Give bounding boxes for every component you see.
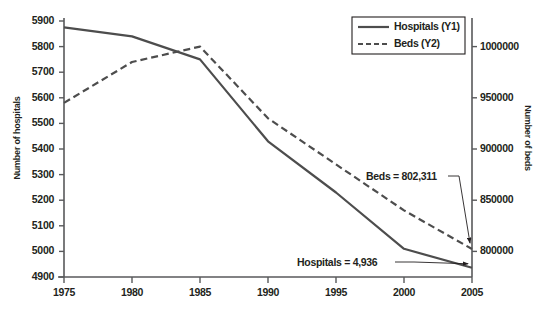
chart-container: Number of hospitals Number of beds 59005… <box>0 0 543 320</box>
y-axis-left-tick-label: 5900 <box>10 14 54 26</box>
x-axis-tick-label: 1985 <box>177 286 223 298</box>
y-axis-left-tick-label: 5500 <box>10 116 54 128</box>
y-axis-left-tick-label: 5800 <box>10 40 54 52</box>
y-axis-left-tick-label: 5000 <box>10 244 54 256</box>
y-axis-left-tick-label: 5300 <box>10 168 54 180</box>
y-axis-left-tick-label: 5700 <box>10 65 54 77</box>
x-axis-tick-label: 1975 <box>41 286 87 298</box>
y-axis-right-tick-label: 900000 <box>480 142 543 154</box>
x-axis-tick-label: 1990 <box>245 286 291 298</box>
legend-label: Hospitals (Y1) <box>394 20 460 32</box>
y-axis-right-tick-label: 800000 <box>480 244 543 256</box>
y-axis-left-tick-label: 5200 <box>10 193 54 205</box>
x-axis-tick-label: 1980 <box>109 286 155 298</box>
x-axis-tick-label: 1995 <box>313 286 359 298</box>
x-axis-tick-label: 2000 <box>381 286 427 298</box>
y-axis-right-tick-label: 850000 <box>480 193 543 205</box>
series-lines <box>64 27 472 267</box>
y-axis-left-tick-label: 5600 <box>10 91 54 103</box>
annotation-leader-lines <box>395 176 470 264</box>
y-axis-left-tick-label: 5100 <box>10 219 54 231</box>
y-axis-right-tick-label: 1000000 <box>480 40 543 52</box>
annotation-hospitals-label: Hospitals = 4,936 <box>297 256 377 268</box>
axis-lines <box>58 18 472 277</box>
legend-label: Beds (Y2) <box>394 37 440 49</box>
series-line-hospitals-y1 <box>64 27 472 267</box>
y-axis-right-tick-label: 950000 <box>480 91 543 103</box>
x-axis-tick-label: 2005 <box>449 286 495 298</box>
annotation-beds-leader <box>448 176 470 243</box>
series-line-beds-y2 <box>64 47 472 249</box>
chart-plot-area <box>0 0 543 320</box>
y-axis-left-tick-label: 5400 <box>10 142 54 154</box>
annotation-beds-label: Beds = 802,311 <box>366 170 437 182</box>
tick-marks <box>59 21 477 283</box>
y-axis-left-tick-label: 4900 <box>10 270 54 282</box>
